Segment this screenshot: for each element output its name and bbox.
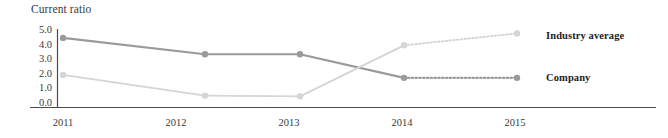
chart-data-point	[60, 35, 66, 41]
chart-plot-area	[0, 0, 668, 138]
chart-data-point	[202, 51, 208, 57]
chart-series-company	[60, 35, 520, 81]
legend-label-company: Company	[546, 72, 590, 83]
legend-label-industry-average: Industry average	[546, 30, 624, 41]
chart-data-point	[514, 30, 520, 36]
chart-line-segment	[205, 96, 300, 97]
chart-data-point	[514, 75, 520, 81]
chart-line-segment	[63, 38, 205, 54]
chart-line-segment	[300, 54, 404, 78]
chart-data-point	[401, 42, 407, 48]
chart-line-segment	[404, 33, 517, 45]
chart-figure: Current ratio 5.0 4.0 3.0 2.0 1.0 0.0 20…	[0, 0, 668, 138]
chart-series-industry-average	[60, 30, 520, 99]
chart-data-point	[297, 93, 303, 99]
chart-line-segment	[300, 45, 404, 96]
chart-line-segment	[63, 75, 205, 96]
chart-data-point	[297, 51, 303, 57]
chart-data-point	[202, 92, 208, 98]
chart-data-point	[60, 72, 66, 78]
chart-data-point	[401, 75, 407, 81]
